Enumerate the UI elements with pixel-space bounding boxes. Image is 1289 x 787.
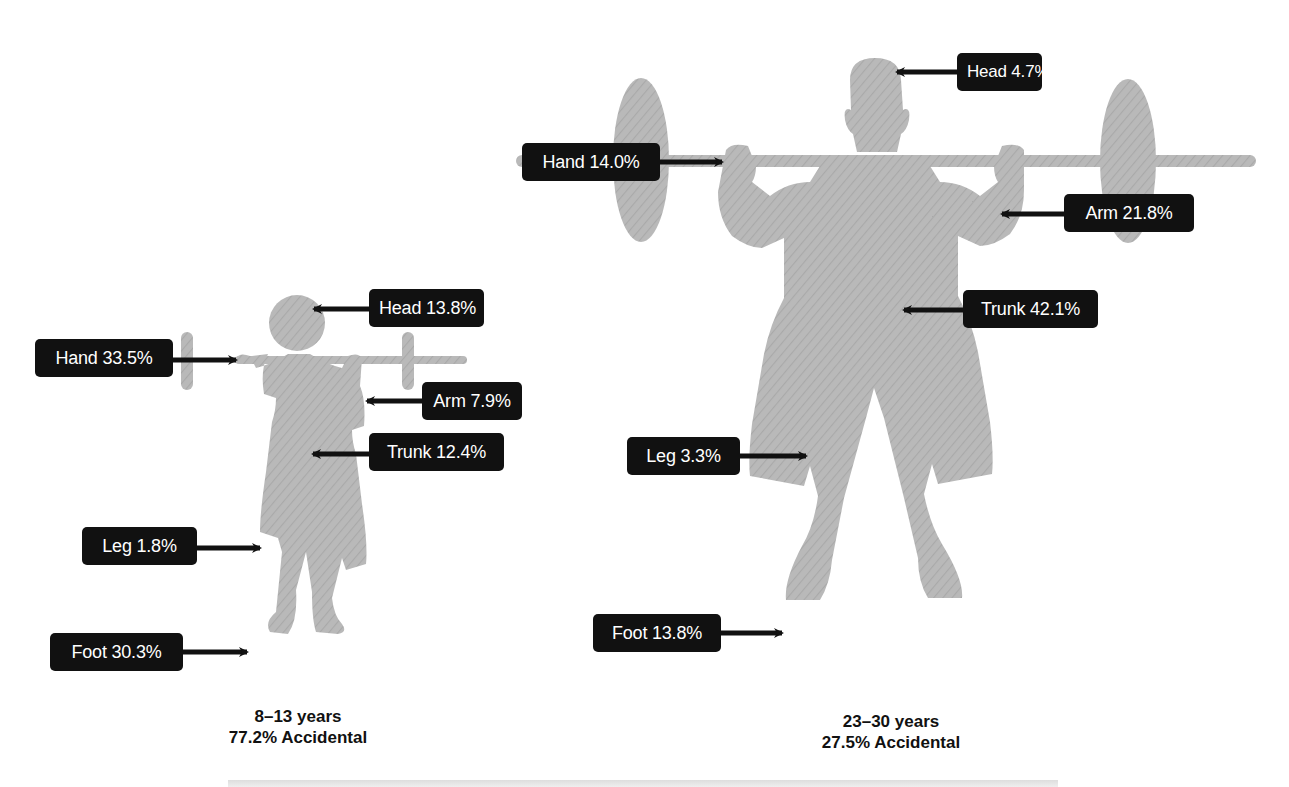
label-adult-foot: Foot 13.8% — [593, 614, 721, 652]
label-adult-arm: Arm 21.8% — [1064, 194, 1194, 232]
child-head — [269, 295, 325, 351]
caption-child: 8–13 years 77.2% Accidental — [229, 706, 367, 748]
label-child-leg: Leg 1.8% — [82, 527, 197, 565]
caption-adult: 23–30 years 27.5% Accidental — [822, 711, 960, 753]
label-child-arm: Arm 7.9% — [422, 382, 522, 420]
adult-body — [718, 145, 1024, 600]
label-child-foot: Foot 30.3% — [50, 633, 183, 671]
label-child-hand: Hand 33.5% — [35, 339, 173, 377]
label-adult-hand: Hand 14.0% — [522, 143, 660, 181]
caption-child-accidental: 77.2% Accidental — [229, 727, 367, 748]
child-body — [236, 354, 367, 634]
label-adult-trunk: Trunk 42.1% — [963, 290, 1098, 328]
diagram-canvas — [0, 0, 1289, 787]
caption-adult-accidental: 27.5% Accidental — [822, 732, 960, 753]
figure-caption-clipped — [228, 780, 1058, 787]
caption-adult-age: 23–30 years — [822, 711, 960, 732]
label-child-head: Head 13.8% — [369, 289, 484, 327]
child-barbell-plate-right — [402, 332, 414, 390]
label-adult-head: Head 4.7% — [957, 53, 1042, 91]
adult-silhouette — [516, 58, 1256, 600]
label-adult-leg: Leg 3.3% — [627, 437, 740, 475]
label-child-trunk: Trunk 12.4% — [369, 433, 504, 471]
caption-child-age: 8–13 years — [229, 706, 367, 727]
